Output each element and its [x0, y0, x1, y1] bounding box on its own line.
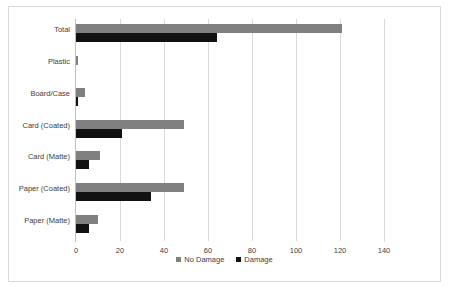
x-tick-label: 120	[334, 246, 347, 255]
bar-no-damage	[76, 215, 98, 224]
bar-group: Card (Matte)	[76, 146, 383, 178]
category-label: Plastic	[48, 57, 70, 66]
bar-damage	[76, 97, 78, 106]
bar-no-damage	[76, 24, 342, 33]
category-label: Total	[54, 25, 70, 34]
category-label: Board/Case	[30, 89, 70, 98]
category-label: Paper (Matte)	[24, 216, 70, 225]
chart-frame: TotalPlasticBoard/CaseCard (Coated)Card …	[8, 6, 441, 282]
bar-group: Paper (Coated)	[76, 178, 383, 210]
chart-legend: No DamageDamage	[9, 255, 440, 264]
bar-no-damage	[76, 120, 184, 129]
bar-group: Card (Coated)	[76, 115, 383, 147]
bar-group: Paper (Matte)	[76, 210, 383, 242]
x-tick-label: 100	[290, 246, 303, 255]
legend-label: No Damage	[184, 255, 224, 264]
bar-damage	[76, 224, 89, 233]
bar-damage	[76, 33, 217, 42]
plot-area: TotalPlasticBoard/CaseCard (Coated)Card …	[75, 19, 383, 242]
gridline	[384, 19, 385, 242]
x-tick-label: 60	[204, 246, 212, 255]
bar-damage	[76, 192, 151, 201]
category-label: Card (Matte)	[28, 152, 70, 161]
x-tick-label: 140	[378, 246, 391, 255]
bar-group: Board/Case	[76, 83, 383, 115]
bar-damage	[76, 160, 89, 169]
bar-damage	[76, 129, 122, 138]
legend-label: Damage	[244, 255, 272, 264]
legend-item: Damage	[236, 255, 272, 264]
x-tick-label: 40	[160, 246, 168, 255]
bar-no-damage	[76, 151, 100, 160]
category-label: Paper (Coated)	[19, 184, 70, 193]
bar-no-damage	[76, 88, 85, 97]
legend-swatch-icon	[176, 257, 181, 262]
bar-no-damage	[76, 183, 184, 192]
bar-group: Plastic	[76, 51, 383, 83]
category-label: Card (Coated)	[22, 121, 70, 130]
bar-group: Total	[76, 19, 383, 51]
x-tick-label: 0	[74, 246, 78, 255]
x-axis-line	[76, 241, 383, 242]
legend-swatch-icon	[236, 257, 241, 262]
x-tick-label: 80	[248, 246, 256, 255]
legend-item: No Damage	[176, 255, 224, 264]
x-tick-label: 20	[116, 246, 124, 255]
bar-no-damage	[76, 56, 78, 65]
